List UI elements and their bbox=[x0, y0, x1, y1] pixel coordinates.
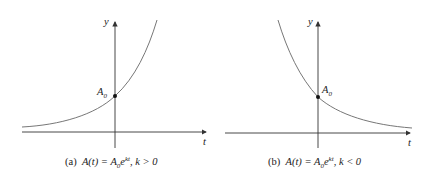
caption-a: (a) A(t) = A0ekt, k > 0 bbox=[65, 154, 158, 170]
decay-curve bbox=[278, 20, 412, 128]
chart-a bbox=[22, 20, 206, 148]
caption-b: (b) A(t) = A0ekt, k < 0 bbox=[268, 154, 361, 170]
t-label-b: t bbox=[408, 137, 411, 148]
y-label-a: y bbox=[104, 16, 109, 27]
y-label-b: y bbox=[308, 16, 313, 27]
a0-point bbox=[113, 94, 117, 98]
charts-canvas bbox=[0, 0, 425, 180]
a0-label-b: A0 bbox=[322, 84, 332, 98]
a0-label-a: A0 bbox=[97, 86, 107, 100]
t-label-a: t bbox=[203, 136, 206, 147]
a0-point bbox=[316, 95, 320, 99]
growth-curve bbox=[22, 20, 157, 127]
chart-b bbox=[225, 20, 412, 148]
